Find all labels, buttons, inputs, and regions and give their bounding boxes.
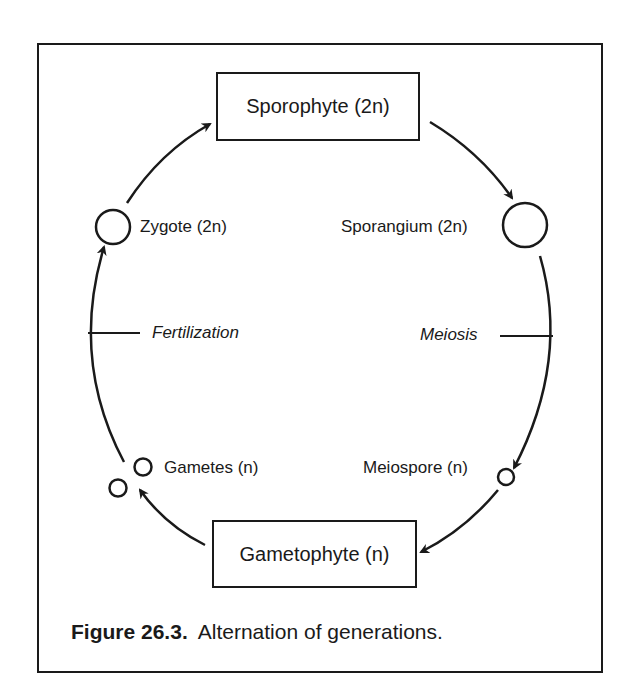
zygote-circle [96, 210, 130, 244]
figure-number: Figure 26.3. [71, 620, 188, 643]
sporangium-circle [503, 203, 547, 247]
meiosis-label: Meiosis [420, 325, 478, 345]
meiospore-label: Meiospore (n) [363, 458, 468, 478]
sporophyte-box: Sporophyte (2n) [216, 72, 420, 141]
gametophyte-box: Gametophyte (n) [212, 520, 417, 588]
gametophyte-label: Gametophyte (n) [239, 543, 389, 566]
fertilization-label: Fertilization [152, 323, 239, 343]
figure-caption: Figure 26.3.Alternation of generations. [71, 620, 443, 644]
arrow-gametophyte-to-gametes [140, 490, 205, 545]
sporophyte-label: Sporophyte (2n) [246, 95, 389, 118]
gametes-label: Gametes (n) [164, 458, 258, 478]
sporangium-label: Sporangium (2n) [341, 217, 468, 237]
zygote-label: Zygote (2n) [140, 217, 227, 237]
arrow-meiospore-to-gametophyte [421, 490, 498, 552]
figure-caption-text: Alternation of generations. [198, 620, 443, 643]
arrow-sporophyte-to-sporangium [430, 122, 512, 198]
arrow-gametes-to-zygote [91, 247, 124, 462]
arrow-sporangium-to-meiospore [514, 256, 550, 468]
meiospore-circle [498, 469, 514, 485]
arrow-zygote-to-sporophyte [127, 124, 210, 203]
gamete-circle-1 [135, 459, 152, 476]
gamete-circle-2 [110, 480, 127, 497]
